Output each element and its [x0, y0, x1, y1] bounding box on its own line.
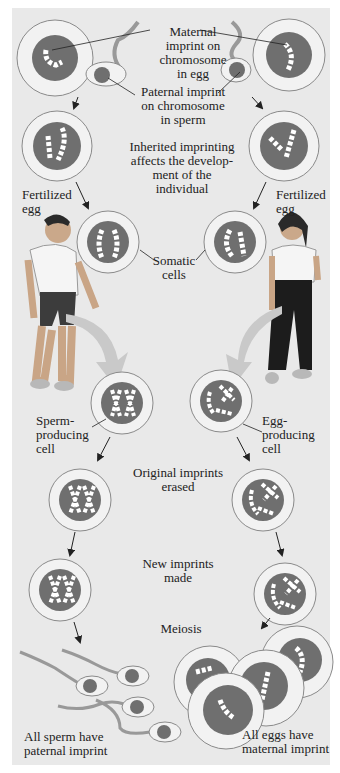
somatic-cell-left — [77, 211, 139, 273]
new-imprint-cell-left — [29, 559, 91, 621]
egg-producing-cell — [190, 370, 252, 432]
label-all-sperm: All sperm have paternal imprint — [24, 730, 107, 758]
label-all-eggs: All eggs have maternal imprint — [242, 728, 329, 756]
label-maternal-imprint: Maternal imprint on chromosome in egg — [138, 25, 248, 81]
label-new-imprints-made: New imprints made — [128, 557, 228, 585]
fertilized-egg-left — [22, 111, 92, 181]
erased-cell-right — [232, 469, 294, 531]
label-paternal-imprint: Paternal imprint on chromosome in sperm — [118, 85, 248, 127]
label-fertilized-egg-left: Fertilized egg — [22, 188, 72, 216]
label-somatic-cells: Somatic cells — [146, 254, 202, 282]
maternal-egg-left — [17, 20, 93, 96]
label-original-imprints-erased: Original imprints erased — [118, 466, 238, 494]
label-inherited-imprinting: Inherited imprinting affects the develop… — [112, 140, 252, 196]
new-imprint-cell-right — [254, 563, 316, 625]
fertilized-egg-right — [249, 111, 319, 181]
female-figure — [265, 212, 318, 384]
maternal-egg-right — [253, 19, 325, 91]
label-meiosis: Meiosis — [146, 622, 216, 636]
sperm-producing-cell — [91, 372, 153, 434]
erased-cell-left — [49, 469, 111, 531]
somatic-cell-right — [204, 211, 266, 273]
label-egg-producing-cell: Egg- producing cell — [262, 414, 315, 456]
label-sperm-producing-cell: Sperm- producing cell — [36, 414, 89, 456]
label-fertilized-egg-right: Fertilized egg — [276, 188, 326, 216]
sperm-top-left — [86, 22, 138, 86]
